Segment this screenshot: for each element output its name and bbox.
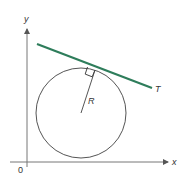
y-axis-label: y [23, 14, 29, 24]
tangent-label: T [155, 84, 162, 94]
x-axis-label: x [171, 157, 177, 167]
origin-label: 0 [18, 165, 23, 175]
radius-label: R [88, 96, 95, 106]
radius-line [81, 70, 95, 113]
tangent-line [37, 44, 152, 88]
tangent-circle-diagram: y x 0 R T [0, 0, 188, 188]
diagram-canvas: y x 0 R T [0, 0, 188, 188]
